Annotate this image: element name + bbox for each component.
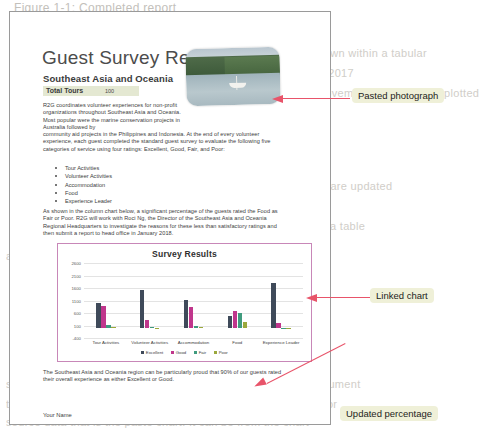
body-paragraph-3: The Southeast Asia and Oceania region ca… <box>43 369 287 384</box>
chart-bar <box>111 327 115 328</box>
arrow-to-percentage <box>253 359 349 415</box>
chart-x-label: Experience Leader <box>263 340 300 345</box>
list-item: Tour Activities <box>52 164 112 172</box>
chart-legend-item: Good <box>171 350 186 355</box>
body-paragraph-1b: community aid projects in the Philippine… <box>43 131 287 153</box>
chart-bar <box>238 313 242 329</box>
chart-x-label: Tour Activities <box>92 340 119 345</box>
chart-category-group: Accommodation <box>172 263 216 338</box>
chart-x-label: Volunteer Activities <box>131 340 168 345</box>
pasted-photograph[interactable] <box>185 47 281 107</box>
body-paragraph-1: R2G coordinates volunteer experiences fo… <box>43 102 185 132</box>
list-item: Experience Leader <box>52 197 112 205</box>
chart-category-group: Experience Leader <box>259 263 303 338</box>
chart-legend-swatch <box>194 351 197 354</box>
chart-y-tick: 2100 <box>71 273 81 278</box>
chart-bar <box>101 306 105 329</box>
chart-category-group: Tour Activities <box>84 263 128 338</box>
page-subtitle: Southeast Asia and Oceania <box>43 73 173 84</box>
photo-water <box>186 73 281 106</box>
chart-y-tick: 1600 <box>71 286 81 291</box>
chart-bar <box>199 327 203 328</box>
list-item: Food <box>52 189 112 197</box>
footer-name: Your Name <box>43 412 72 418</box>
arrow-to-photograph <box>272 95 350 103</box>
body-paragraph-2: As shown in the column chart below, a si… <box>43 208 287 238</box>
chart-bar <box>145 320 149 328</box>
chart-bar <box>243 322 247 328</box>
chart-legend-item: Poor <box>214 350 228 355</box>
chart-y-tick: 600 <box>74 311 81 316</box>
chart-x-label: Accommodation <box>178 340 209 345</box>
chart-legend-swatch <box>171 351 174 354</box>
total-tours-value: 100 <box>105 88 114 94</box>
chart-bar <box>194 326 198 329</box>
chart-category-group: Volunteer Activities <box>128 263 172 338</box>
chart-bar <box>96 303 100 328</box>
chart-bar <box>106 325 110 328</box>
chart-bar <box>184 300 188 328</box>
chart-legend-swatch <box>214 351 217 354</box>
background-line: a table <box>330 220 365 232</box>
list-item: Volunteer Activities <box>52 172 112 180</box>
chart-bar <box>189 307 193 328</box>
chart-legend: ExcellentGoodFairPoor <box>58 350 311 355</box>
callout-updated-percentage: Updated percentage <box>340 406 438 421</box>
chart-bar <box>271 283 275 328</box>
chart-y-tick: 1100 <box>72 298 81 303</box>
chart-y-tick: 2600 <box>71 261 81 266</box>
chart-bar <box>233 311 237 329</box>
chart-title: Survey Results <box>58 249 311 259</box>
total-tours-row: Total Tours 100 <box>43 86 139 96</box>
callout-linked-chart: Linked chart <box>370 288 434 303</box>
categories-list: Tour Activities Volunteer Activities Acc… <box>52 164 112 205</box>
callout-pasted-photograph: Pasted photograph <box>352 88 444 103</box>
arrow-to-chart <box>306 294 370 302</box>
updated-percentage-value: 90% <box>221 369 232 375</box>
chart-bar <box>140 290 144 328</box>
list-item: Accommodation <box>52 181 112 189</box>
chart-gridline <box>84 338 303 339</box>
chart-y-tick: 100 <box>74 323 81 328</box>
chart-plot-area: 2600210016001100600100-400Tour Activitie… <box>84 263 303 338</box>
chart-y-tick: -400 <box>72 336 81 341</box>
total-tours-label: Total Tours <box>46 87 83 94</box>
chart-x-label: Food <box>232 340 242 345</box>
chart-legend-swatch <box>141 351 144 354</box>
chart-bar <box>228 316 232 328</box>
linked-chart[interactable]: Survey Results 2600210016001100600100-40… <box>57 243 312 362</box>
chart-bar <box>276 323 280 328</box>
chart-legend-item: Fair <box>194 350 206 355</box>
chart-legend-item: Excellent <box>141 350 163 355</box>
chart-bar <box>150 327 154 328</box>
chart-category-group: Food <box>215 263 259 338</box>
